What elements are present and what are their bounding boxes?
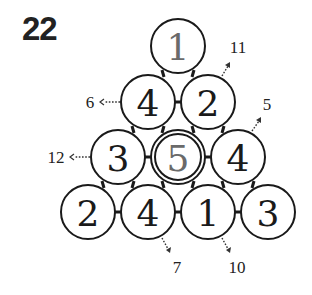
circle-r1c1: 1 — [151, 19, 205, 73]
number-triangle-diagram: 1423542413 612115710 — [0, 0, 312, 295]
circle-value: 2 — [77, 193, 100, 234]
hint-row2-left: 6 — [86, 93, 95, 112]
circle-value: 1 — [197, 193, 220, 234]
circle-r2c1: 4 — [121, 75, 175, 129]
arrow-up-right-top-icon — [222, 62, 230, 76]
hint-row3-left: 12 — [48, 148, 65, 167]
hint-mid-right: 5 — [263, 95, 272, 114]
arrow-down-right-bottom-right-icon — [222, 238, 231, 253]
arrow-left-row3-icon — [70, 154, 90, 160]
circle-value: 3 — [107, 138, 130, 179]
number-circles: 1423542413 — [61, 19, 295, 239]
circle-r3c1: 3 — [91, 130, 145, 184]
circle-value: 4 — [137, 193, 160, 234]
circle-r3c3: 4 — [211, 130, 265, 184]
arrow-down-right-bottom-left-icon — [162, 238, 171, 253]
circle-value: 5 — [167, 138, 190, 179]
hint-bottom-left: 7 — [173, 258, 182, 277]
circle-r4c4: 3 — [241, 185, 295, 239]
circle-value: 4 — [227, 138, 250, 179]
circle-value: 3 — [257, 193, 280, 234]
circle-r4c2: 4 — [121, 185, 175, 239]
arrow-up-right-mid-icon — [252, 117, 261, 131]
circle-value: 1 — [167, 27, 190, 68]
circle-r4c3: 1 — [181, 185, 235, 239]
circle-value: 2 — [197, 83, 220, 124]
circle-r2c2: 2 — [181, 75, 235, 129]
circle-value: 4 — [137, 83, 160, 124]
hint-bottom-right: 10 — [229, 258, 246, 277]
circle-r4c1: 2 — [61, 185, 115, 239]
arrow-left-row2-icon — [100, 99, 120, 105]
circle-r3c2: 5 — [151, 130, 205, 184]
hint-top-right: 11 — [230, 38, 246, 57]
